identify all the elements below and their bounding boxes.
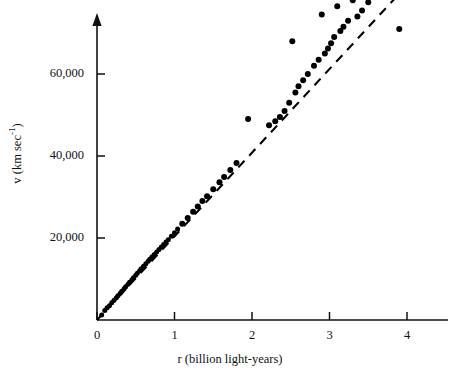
data-point — [328, 40, 334, 46]
y-axis-title-exponent: -1 — [7, 128, 17, 136]
data-point — [331, 34, 337, 40]
data-point — [334, 3, 340, 9]
data-point — [319, 12, 325, 18]
data-point — [227, 167, 233, 173]
y-tick-label: 60,000 — [0, 66, 84, 81]
data-point — [234, 160, 240, 166]
data-point — [305, 71, 311, 77]
data-point — [354, 14, 360, 20]
data-point — [266, 122, 272, 128]
data-point — [204, 193, 210, 199]
data-point — [221, 174, 227, 180]
data-point — [365, 0, 371, 5]
data-point — [195, 203, 201, 209]
data-point — [296, 83, 302, 89]
data-point — [99, 313, 104, 318]
data-point — [345, 18, 351, 24]
data-point — [289, 38, 295, 44]
data-point — [179, 221, 185, 227]
y-axis-title-close: ) — [10, 123, 24, 127]
data-point — [190, 209, 196, 215]
x-tick-label: 1 — [155, 328, 195, 343]
x-axis-title: r (billion light-years) — [0, 352, 460, 367]
data-point — [316, 57, 322, 63]
y-tick-label: 40,000 — [0, 148, 84, 163]
data-point — [396, 26, 402, 32]
data-point — [210, 186, 216, 192]
x-tick-label: 2 — [232, 328, 272, 343]
data-point — [300, 77, 306, 83]
data-point — [286, 100, 292, 106]
hubble-diagram-figure: v (km sec-1) r (billion light-years) 20,… — [0, 0, 460, 381]
data-point — [245, 116, 251, 122]
trendline-dashed — [97, 0, 403, 320]
data-point — [359, 7, 365, 13]
data-point — [292, 89, 298, 95]
data-point — [175, 226, 180, 231]
data-point — [272, 118, 278, 124]
scatter-plot-canvas — [0, 0, 460, 381]
x-tick-label: 3 — [310, 328, 350, 343]
x-tick-label: 0 — [77, 328, 117, 343]
data-point — [340, 24, 346, 30]
y-tick-label: 20,000 — [0, 230, 84, 245]
data-point — [311, 63, 317, 69]
data-point — [199, 198, 205, 204]
data-point — [350, 0, 356, 3]
axes-group — [92, 0, 448, 320]
data-point — [325, 46, 331, 52]
data-point — [185, 215, 191, 221]
data-point — [282, 108, 288, 114]
data-point — [216, 179, 222, 185]
data-point — [277, 114, 283, 120]
x-tick-label: 4 — [387, 328, 427, 343]
y-axis-arrowhead — [92, 13, 101, 26]
